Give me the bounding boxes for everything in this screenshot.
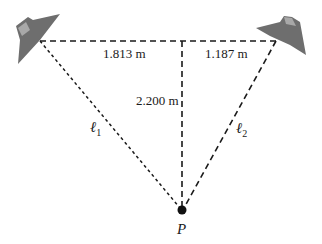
path-l2-label: ℓ2 <box>236 121 247 139</box>
point-p-dot <box>178 206 187 215</box>
right-speaker-icon <box>256 16 306 55</box>
path-l1-dashed-line <box>40 41 180 208</box>
vertical-distance-label: 2.200 m <box>136 94 179 107</box>
path-l2-subscript: 2 <box>242 128 247 139</box>
point-p-label: P <box>177 222 186 237</box>
left-segment-label: 1.813 m <box>103 47 146 60</box>
right-segment-label: 1.187 m <box>205 47 248 60</box>
path-l1-subscript: 1 <box>96 127 101 138</box>
path-l2-dashed-line <box>184 41 276 208</box>
speaker-interference-diagram <box>0 0 322 244</box>
path-l1-label: ℓ1 <box>90 120 101 138</box>
